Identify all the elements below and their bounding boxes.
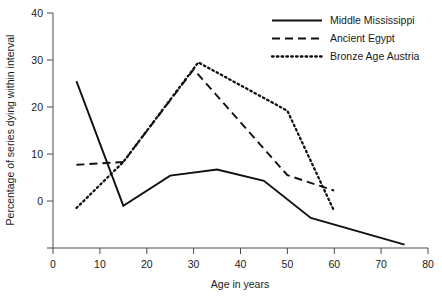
x-tick-label-80: 80 [422,258,434,270]
x-tick-label-40: 40 [235,258,247,270]
y-axis-ticks [47,13,53,248]
x-tick-label-60: 60 [328,258,340,270]
x-axis-ticks [53,248,428,254]
y-axis-title: Percentage of series dying within interv… [4,35,16,226]
legend-label-1: Ancient Egypt [330,32,395,44]
legend: Middle Mississippi Ancient Egypt Bronze … [272,14,419,62]
y-tick-label-4: 40 [31,7,43,19]
line-chart: 0 10 20 30 40 0 0 10 20 30 40 50 60 70 8… [0,0,442,297]
x-tick-label-30: 30 [188,258,200,270]
y-tick-label-1: 10 [31,148,43,160]
chart-figure: 0 10 20 30 40 0 0 10 20 30 40 50 60 70 8… [0,0,442,297]
legend-label-0: Middle Mississippi [330,14,415,26]
x-tick-label-20: 20 [141,258,153,270]
series-line-bronze-age-austria [76,62,334,211]
x-tick-label-70: 70 [375,258,387,270]
x-tick-label-50: 50 [282,258,294,270]
y-tick-label-3: 30 [31,54,43,66]
x-tick-label-0: 0 [50,258,56,270]
y-tick-label-0: 0 [37,195,43,207]
y-tick-label-2: 20 [31,101,43,113]
x-tick-label-10: 10 [94,258,106,270]
x-axis-title: Age in years [211,278,269,290]
legend-label-2: Bronze Age Austria [330,50,419,62]
series-line-middle-mississippi [76,81,404,245]
